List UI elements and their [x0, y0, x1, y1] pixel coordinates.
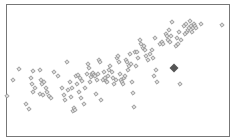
scatter-plot [0, 0, 231, 139]
